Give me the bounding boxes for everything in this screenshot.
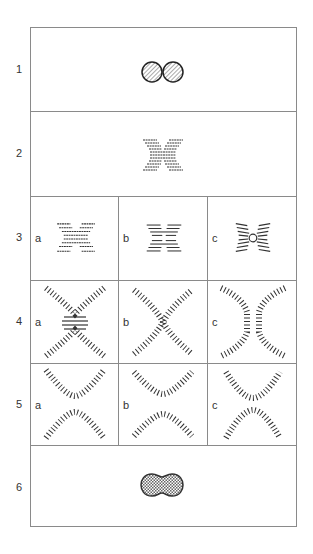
sub-label-3c: c xyxy=(212,232,218,244)
row-divider xyxy=(30,363,297,364)
stage-4a-icon xyxy=(40,284,110,360)
row-divider xyxy=(30,445,297,446)
stage-3b-icon xyxy=(145,222,183,254)
stage-5a-icon xyxy=(40,366,110,442)
diagram-frame xyxy=(30,27,297,527)
stage-4b-icon xyxy=(128,284,198,360)
stage-4c-icon xyxy=(217,282,289,362)
stalk-lamellae-icon xyxy=(141,138,185,172)
column-divider xyxy=(118,196,119,445)
row-label-3: 3 xyxy=(12,231,26,243)
row-label-6: 6 xyxy=(12,481,26,493)
stage-5c-icon xyxy=(222,366,284,442)
row-label-5: 5 xyxy=(12,398,26,410)
fused-vesicle-icon xyxy=(140,472,184,498)
sub-label-5c: c xyxy=(212,399,218,411)
stage-3c-icon xyxy=(232,221,274,255)
row-label-2: 2 xyxy=(12,147,26,159)
row-divider xyxy=(30,111,297,112)
sub-label-3b: b xyxy=(123,232,129,244)
sub-label-3a: a xyxy=(35,232,41,244)
stage-5b-icon xyxy=(128,366,198,442)
row-divider xyxy=(30,280,297,281)
stage-3a-icon xyxy=(55,222,97,254)
column-divider xyxy=(207,196,208,445)
row-divider xyxy=(30,196,297,197)
row-label-1: 1 xyxy=(12,63,26,75)
row-label-4: 4 xyxy=(12,315,26,327)
two-vesicles-icon xyxy=(140,60,185,85)
